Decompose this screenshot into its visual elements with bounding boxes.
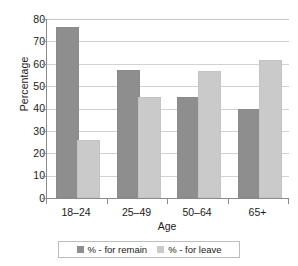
legend-swatch-remain-icon: [77, 246, 84, 253]
bar-group-50-64: [168, 19, 229, 198]
x-tick-1: [107, 199, 108, 204]
x-tick-label-25-49: 25–49: [102, 206, 172, 218]
bar-remain-50-64[interactable]: [177, 97, 200, 198]
legend: % - for remain % - for leave: [58, 241, 240, 258]
bar-group-25-49: [108, 19, 169, 198]
legend-item-leave[interactable]: % - for leave: [157, 245, 221, 255]
y-tick-label-40: 40: [5, 103, 45, 113]
bar-leave-25-49[interactable]: [138, 97, 161, 198]
x-tick-0: [46, 199, 47, 204]
legend-swatch-leave-icon: [157, 246, 164, 253]
x-tick-3: [228, 199, 229, 204]
y-tick-label-10: 10: [5, 170, 45, 180]
y-tick-label-50: 50: [5, 81, 45, 91]
y-tick-label-0: 0: [5, 193, 45, 203]
y-tick-label-60: 60: [5, 59, 45, 69]
x-tick-label-18-24: 18–24: [41, 206, 111, 218]
x-axis-title: Age: [46, 220, 288, 232]
bar-group-18-24: [47, 19, 108, 198]
bar-leave-50-64[interactable]: [198, 71, 221, 198]
bar-remain-18-24[interactable]: [56, 27, 79, 198]
y-tick-label-80: 80: [5, 14, 45, 24]
y-tick-label-70: 70: [5, 36, 45, 46]
bar-group-65-plus: [229, 19, 290, 198]
bar-leave-18-24[interactable]: [77, 140, 100, 198]
bar-remain-25-49[interactable]: [117, 70, 140, 198]
x-tick-label-65-plus: 65+: [223, 206, 293, 218]
y-tick-label-30: 30: [5, 126, 45, 136]
x-tick-label-50-64: 50–64: [162, 206, 232, 218]
legend-label-leave: % - for leave: [168, 245, 221, 255]
legend-label-remain: % - for remain: [88, 245, 148, 255]
bar-chart: Percentage 80 70 60 50 40 30 20 10 0: [0, 0, 298, 266]
plot-area: [46, 19, 289, 199]
bar-leave-65-plus[interactable]: [259, 60, 282, 198]
y-tick-label-20: 20: [5, 148, 45, 158]
bar-remain-65-plus[interactable]: [238, 109, 261, 198]
x-tick-2: [167, 199, 168, 204]
x-tick-4: [288, 199, 289, 204]
legend-item-remain[interactable]: % - for remain: [77, 245, 148, 255]
